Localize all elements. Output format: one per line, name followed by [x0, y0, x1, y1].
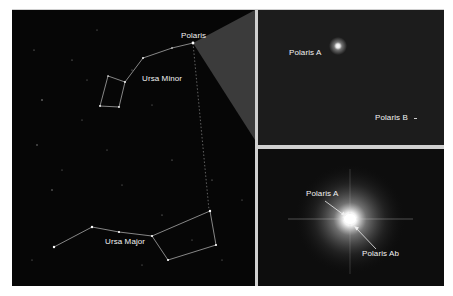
polaris-closeup-diagram	[258, 149, 444, 286]
ursa-major-stars	[53, 210, 217, 261]
ursa-major-label: Ursa Major	[105, 237, 145, 246]
ursa-major-lines	[54, 211, 216, 260]
star-chart-panel: Polaris Ursa Minor Ursa Major	[12, 10, 255, 286]
polaris-b-label: Polaris B	[375, 113, 408, 122]
zoom-wedge	[193, 10, 255, 140]
ursa-minor-label: Ursa Minor	[142, 74, 182, 83]
polaris-a-star	[344, 214, 356, 224]
polaris-a-closeup-label: Polaris A	[306, 189, 338, 198]
polaris-wide-view-panel: Polaris A Polaris B	[258, 10, 444, 145]
pointer-line	[193, 43, 209, 210]
polaris-b-star	[414, 118, 417, 119]
polaris-label: Polaris	[181, 31, 206, 40]
polaris-a-label: Polaris A	[289, 48, 321, 57]
polaris-closeup-panel: Polaris A Polaris Ab	[258, 149, 444, 286]
polaris-ab-label: Polaris Ab	[362, 249, 399, 258]
